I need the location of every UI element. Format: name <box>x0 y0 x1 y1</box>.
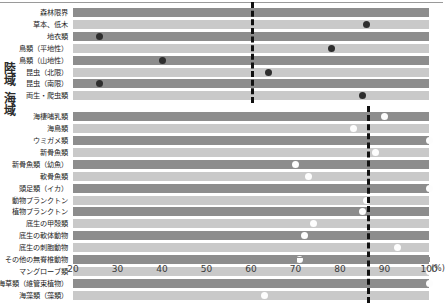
row-label: その他の無脊椎動物 <box>0 255 68 264</box>
x-tick-label: 40 <box>156 264 167 274</box>
data-point-marker <box>292 161 299 168</box>
bar-track <box>73 160 429 169</box>
plot-area: 森林限界草本、低木地衣類鳥類（平地性）鳥類（山地性）昆虫（北限）昆虫（南限）両生… <box>73 8 429 248</box>
threshold-dashed-line <box>251 2 254 103</box>
x-tick-label: 60 <box>245 264 256 274</box>
chart-row: 頭足類（イカ） <box>73 184 429 193</box>
row-label: 草本、低木 <box>0 20 68 29</box>
chart-row: 海草類（維管束植物） <box>73 279 429 288</box>
row-label-cell: 植物プランクトン <box>0 207 68 216</box>
data-point-marker <box>350 125 357 132</box>
row-label-cell: 森林限界 <box>0 8 68 17</box>
row-label: マングローブ類 <box>0 267 68 276</box>
data-point-marker <box>261 292 268 299</box>
chart-row: 新骨魚類 <box>73 148 429 157</box>
bar-track <box>73 231 429 240</box>
row-label-cell: 底生の刺胞動物 <box>0 243 68 252</box>
row-label: 鳥類（平地性） <box>0 44 68 53</box>
row-label-cell: 海鳥類 <box>0 124 68 133</box>
row-label: 海草類（維管束植物） <box>0 279 68 288</box>
chart-row: 底生の軟体動物 <box>73 231 429 240</box>
bar-track <box>73 207 429 216</box>
row-label: 地衣類 <box>0 32 68 41</box>
row-label-cell: 頭足類（イカ） <box>0 184 68 193</box>
row-label: 海棲哺乳類 <box>0 112 68 121</box>
row-label: ウミガメ類 <box>0 136 68 145</box>
row-label: 底生の軟体動物 <box>0 231 68 240</box>
bar-track <box>73 196 429 205</box>
top-divider <box>0 2 443 3</box>
data-point-marker <box>426 185 433 192</box>
row-label-cell: 底生の甲殻類 <box>0 219 68 228</box>
chart-row: 海藻類（藻類） <box>73 291 429 300</box>
row-label: 森林限界 <box>0 8 68 17</box>
row-label: 植物プランクトン <box>0 207 68 216</box>
row-label-cell: 昆虫（南限） <box>0 79 68 88</box>
chart-row: 軟骨魚類 <box>73 172 429 181</box>
x-tick <box>296 257 297 262</box>
row-label: 昆虫（南限） <box>0 79 68 88</box>
data-point-marker <box>426 280 433 287</box>
chart-row: 底生の刺胞動物 <box>73 243 429 252</box>
x-axis-unit-label: (%) <box>431 264 445 273</box>
x-tick <box>207 257 208 262</box>
row-label: 軟骨魚類 <box>0 172 68 181</box>
row-label: 新骨魚類（幼魚） <box>0 160 68 169</box>
row-label-cell: 海藻類（藻類） <box>0 291 68 300</box>
x-tick <box>429 257 430 262</box>
row-label-cell: 新骨魚類（幼魚） <box>0 160 68 169</box>
bar-track <box>73 136 429 145</box>
data-point-marker <box>426 137 433 144</box>
row-label-cell: 新骨魚類 <box>0 148 68 157</box>
row-label: 海鳥類 <box>0 124 68 133</box>
row-label-cell: 鳥類（平地性） <box>0 44 68 53</box>
bar-track <box>73 219 429 228</box>
bar-track <box>73 243 429 252</box>
row-label: 底生の刺胞動物 <box>0 243 68 252</box>
chart-row: 海鳥類 <box>73 124 429 133</box>
row-label-cell: 昆虫（北限） <box>0 68 68 77</box>
row-label-cell: 底生の軟体動物 <box>0 231 68 240</box>
row-label-cell: 草本、低木 <box>0 20 68 29</box>
row-label-cell: 軟骨魚類 <box>0 172 68 181</box>
row-label: 鳥類（山地性） <box>0 56 68 65</box>
chart-row: 底生の甲殻類 <box>73 219 429 228</box>
bar-track <box>73 172 429 181</box>
row-label: 海藻類（藻類） <box>0 291 68 300</box>
row-label-cell: 鳥類（山地性） <box>0 56 68 65</box>
row-label-cell: 海草類（維管束植物） <box>0 279 68 288</box>
bar-track <box>73 112 429 121</box>
row-label-cell: マングローブ類 <box>0 267 68 276</box>
x-tick <box>340 257 341 262</box>
row-label: 動物プランクトン <box>0 196 68 205</box>
data-point-marker <box>159 57 166 64</box>
x-tick <box>118 257 119 262</box>
bar-track <box>73 184 429 193</box>
row-label: 頭足類（イカ） <box>0 184 68 193</box>
x-tick-label: 50 <box>201 264 212 274</box>
row-label-cell: その他の無脊椎動物 <box>0 255 68 264</box>
x-tick <box>251 257 252 262</box>
row-label-cell: 動物プランクトン <box>0 196 68 205</box>
x-tick-label: 70 <box>290 264 301 274</box>
x-tick-label: 20 <box>67 264 78 274</box>
x-tick <box>73 257 74 262</box>
bar-track <box>73 124 429 133</box>
chart-row: 動物プランクトン <box>73 196 429 205</box>
x-tick <box>385 257 386 262</box>
row-label: 両生・爬虫類 <box>0 91 68 100</box>
row-label-cell: 海棲哺乳類 <box>0 112 68 121</box>
row-label-cell: 地衣類 <box>0 32 68 41</box>
row-label-cell: 両生・爬虫類 <box>0 91 68 100</box>
chart-row: 海棲哺乳類 <box>73 112 429 121</box>
data-point-marker <box>372 149 379 156</box>
row-label: 底生の甲殻類 <box>0 219 68 228</box>
chart-row: 植物プランクトン <box>73 207 429 216</box>
row-label: 新骨魚類 <box>0 148 68 157</box>
data-point-marker <box>265 69 272 76</box>
data-point-marker <box>328 45 335 52</box>
x-tick <box>162 257 163 262</box>
row-label-cell: ウミガメ類 <box>0 136 68 145</box>
chart-row: ウミガメ類 <box>73 136 429 145</box>
chart-row: 新骨魚類（幼魚） <box>73 160 429 169</box>
